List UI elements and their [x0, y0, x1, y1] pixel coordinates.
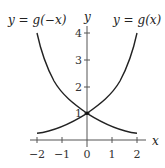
x-axis-label: x: [152, 134, 159, 148]
y-axis-label: y: [83, 10, 91, 24]
y-tick-label: 3: [75, 54, 82, 67]
x-tick-label: 0: [84, 148, 91, 161]
x-tick-label: −2: [29, 148, 45, 161]
chart: −2 −1 0 1 2 1 2 3 4 x y y = g(−x) y = g(…: [0, 0, 165, 168]
x-tick-label: 1: [109, 148, 116, 161]
y-tick-label: 2: [75, 81, 82, 94]
right-curve-label: y = g(x): [112, 13, 162, 27]
left-curve-label: y = g(−x): [7, 13, 67, 27]
x-tick-label: −1: [54, 148, 70, 161]
y-tick-label: 4: [75, 27, 82, 40]
y-tick-label: 1: [75, 107, 82, 120]
intersection-point: [85, 112, 89, 116]
x-tick-label: 2: [134, 148, 141, 161]
